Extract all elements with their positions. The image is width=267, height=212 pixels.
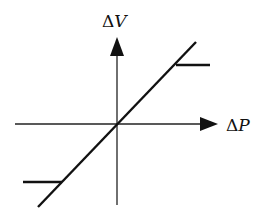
x-axis-arrowhead	[200, 117, 218, 131]
y-axis-label: ΔV	[102, 11, 128, 31]
x-axis-label: ΔP	[226, 115, 250, 135]
saturation-characteristic-diagram: ΔV ΔP	[0, 0, 267, 212]
y-axis-arrowhead	[110, 37, 124, 56]
